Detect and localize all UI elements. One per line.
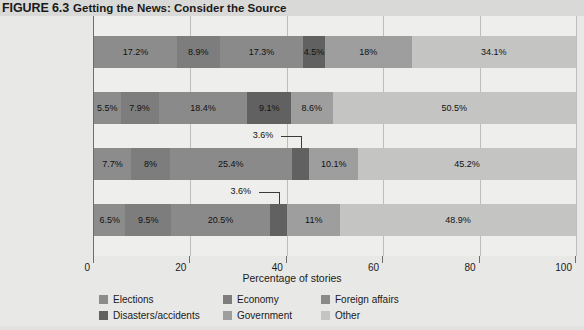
- segment-value-label: 50.5%: [441, 103, 467, 113]
- bar-segment: 9.5%: [125, 204, 171, 236]
- segment-value-label: 8%: [144, 159, 157, 169]
- bar-segment: 34.1%: [412, 36, 576, 68]
- stacked-bar: 17.2%8.9%17.3%4.5%18%34.1%: [94, 36, 576, 68]
- bar-segment: 3.6%: [270, 204, 287, 236]
- segment-value-label: 6.5%: [99, 215, 120, 225]
- bar-segment: 7.7%: [94, 148, 131, 180]
- bar-segment: 17.2%: [94, 36, 177, 68]
- bar-segment: 5.5%: [94, 92, 121, 124]
- x-tick: [93, 256, 94, 263]
- x-tick: [479, 256, 480, 263]
- segment-value-label: 45.2%: [454, 159, 480, 169]
- bar-segment: 9.1%: [247, 92, 291, 124]
- segment-value-label: 17.2%: [123, 47, 149, 57]
- bar-row: Newspapers6.5%9.5%20.5%3.6%11%48.9%: [94, 204, 576, 236]
- segment-value-label: 10.1%: [321, 159, 347, 169]
- bar-segment: 11%: [287, 204, 340, 236]
- gridline-100: [576, 16, 577, 256]
- bar-segment: 6.5%: [94, 204, 125, 236]
- figure-container: FIGURE 6.3 Getting the News: Consider th…: [0, 0, 584, 330]
- segment-value-label: 8.9%: [188, 47, 209, 57]
- bar-segment: 20.5%: [171, 204, 270, 236]
- chart-legend: ElectionsEconomyForeign affairsDisasters…: [99, 294, 519, 326]
- bar-segment: 8.9%: [177, 36, 220, 68]
- callout-leader-horizontal: [259, 192, 279, 193]
- bar-segment: 8%: [131, 148, 170, 180]
- x-axis-title: Percentage of stories: [0, 272, 584, 284]
- x-tick: [189, 256, 190, 263]
- callout-label: 3.6%: [231, 186, 252, 196]
- stacked-bar: 5.5%7.9%18.4%9.1%8.6%50.5%: [94, 92, 576, 124]
- figure-bottom-strip: [0, 326, 584, 330]
- segment-value-label: 8.6%: [302, 103, 323, 113]
- segment-value-label: 20.5%: [208, 215, 234, 225]
- legend-label: Government: [237, 310, 292, 321]
- legend-label: Foreign affairs: [335, 294, 399, 305]
- legend-swatch-icon: [321, 311, 330, 320]
- legend-item[interactable]: Government: [223, 310, 292, 321]
- bar-row: Online news7.7%8%25.4%3.6%10.1%45.2%: [94, 148, 576, 180]
- legend-swatch-icon: [99, 311, 108, 320]
- figure-number: FIGURE 6.3: [0, 1, 69, 15]
- stacked-bar: 7.7%8%25.4%3.6%10.1%45.2%: [94, 148, 576, 180]
- legend-label: Elections: [113, 294, 154, 305]
- legend-item[interactable]: Elections: [99, 294, 154, 305]
- figure-title-bar: FIGURE 6.3 Getting the News: Consider th…: [0, 0, 584, 16]
- legend-label: Other: [335, 310, 360, 321]
- legend-swatch-icon: [223, 295, 232, 304]
- legend-swatch-icon: [223, 311, 232, 320]
- x-tick: [382, 256, 383, 263]
- legend-label: Disasters/accidents: [113, 310, 200, 321]
- legend-label: Economy: [237, 294, 279, 305]
- bar-row: Network TV5.5%7.9%18.4%9.1%8.6%50.5%: [94, 92, 576, 124]
- figure-title: Getting the News: Consider the Source: [69, 2, 286, 14]
- legend-swatch-icon: [321, 295, 330, 304]
- x-tick: [575, 256, 576, 263]
- segment-value-label: 9.1%: [259, 103, 280, 113]
- segment-value-label: 11%: [305, 215, 322, 225]
- segment-value-label: 18%: [359, 47, 377, 57]
- plot-area: Cable TV17.2%8.9%17.3%4.5%18%34.1%Networ…: [93, 16, 576, 256]
- bar-segment: 4.5%: [303, 36, 325, 68]
- stacked-bar: 6.5%9.5%20.5%3.6%11%48.9%: [94, 204, 576, 236]
- segment-value-label: 18.4%: [190, 103, 216, 113]
- bar-segment: 17.3%: [220, 36, 303, 68]
- x-axis: 020406080100: [93, 256, 575, 257]
- callout-leader-horizontal: [281, 136, 301, 137]
- segment-value-label: 48.9%: [445, 215, 471, 225]
- segment-value-label: 25.4%: [218, 159, 244, 169]
- legend-item[interactable]: Economy: [223, 294, 279, 305]
- bar-segment: 45.2%: [358, 148, 576, 180]
- legend-swatch-icon: [99, 295, 108, 304]
- segment-value-label: 4.5%: [304, 47, 325, 57]
- x-tick: [286, 256, 287, 263]
- segment-value-label: 17.3%: [249, 47, 275, 57]
- segment-value-label: 5.5%: [97, 103, 118, 113]
- segment-value-label: 9.5%: [138, 215, 159, 225]
- bar-row: Cable TV17.2%8.9%17.3%4.5%18%34.1%: [94, 36, 576, 68]
- legend-item[interactable]: Disasters/accidents: [99, 310, 200, 321]
- bar-segment: 7.9%: [121, 92, 159, 124]
- bar-segment: 3.6%: [292, 148, 309, 180]
- bar-segment: 25.4%: [170, 148, 292, 180]
- bar-segment: 10.1%: [309, 148, 358, 180]
- bar-segment: 50.5%: [333, 92, 576, 124]
- segment-value-label: 7.9%: [129, 103, 150, 113]
- segment-value-label: 34.1%: [481, 47, 507, 57]
- bar-segment: 18%: [325, 36, 412, 68]
- bar-segment: 18.4%: [159, 92, 248, 124]
- segment-value-label: 7.7%: [102, 159, 123, 169]
- legend-item[interactable]: Other: [321, 310, 360, 321]
- bar-segment: 8.6%: [291, 92, 332, 124]
- bar-segment: 48.9%: [340, 204, 576, 236]
- callout-label: 3.6%: [253, 130, 274, 140]
- legend-item[interactable]: Foreign affairs: [321, 294, 399, 305]
